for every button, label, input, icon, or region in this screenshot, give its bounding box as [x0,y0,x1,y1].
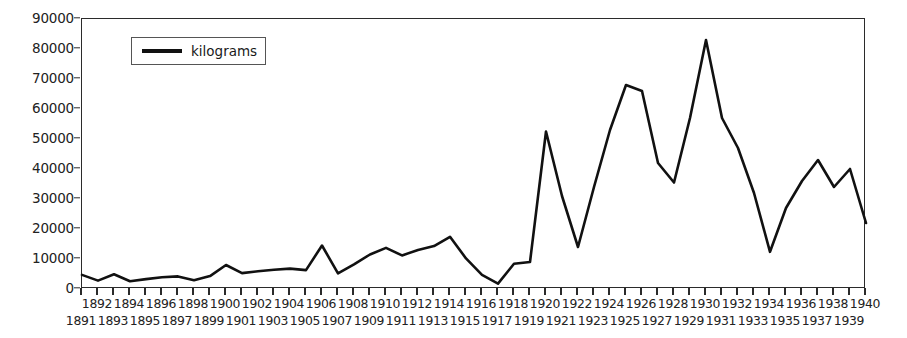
x-tick-mark [752,288,753,295]
x-tick-mark [864,288,865,295]
legend-label-kilograms: kilograms [191,43,257,59]
x-tick-mark [720,288,721,295]
y-tick-mark [74,107,80,108]
x-tick-mark [176,288,177,295]
x-tick-label: 1917 [482,313,512,328]
x-tick-label: 1916 [466,296,496,311]
x-tick-mark [448,288,449,295]
x-tick-label: 1911 [386,313,416,328]
x-tick-mark [208,288,209,295]
x-tick-label: 1909 [354,313,384,328]
y-tick-label: 40000 [32,160,74,176]
x-tick-label: 1891 [66,313,96,328]
x-tick-label: 1897 [162,313,192,328]
y-tick-mark [74,137,80,138]
x-tick-mark [528,288,529,295]
x-tick-label: 1903 [258,313,288,328]
x-tick-label: 1934 [754,296,784,311]
x-tick-mark [160,288,161,295]
y-tick-mark [74,257,80,258]
y-tick-label: 70000 [32,70,74,86]
x-tick-label: 1894 [114,296,144,311]
x-tick-label: 1925 [610,313,640,328]
x-tick-mark [592,288,593,295]
x-tick-mark [784,288,785,295]
y-tick-mark [74,77,80,78]
series-line-kilograms [82,40,866,284]
x-tick-label: 1899 [194,313,224,328]
y-tick-label: 30000 [32,190,74,206]
x-tick-label: 1895 [130,313,160,328]
x-tick-label: 1900 [210,296,240,311]
x-tick-label: 1923 [578,313,608,328]
x-tick-mark [800,288,801,295]
y-tick-label: 80000 [32,40,74,56]
x-tick-label: 1912 [402,296,432,311]
x-tick-mark [672,288,673,295]
x-tick-mark [80,288,81,295]
x-tick-mark [608,288,609,295]
x-tick-mark [384,288,385,295]
x-tick-label: 1940 [850,296,880,311]
x-tick-label: 1920 [530,296,560,311]
x-tick-mark [656,288,657,295]
legend-line-swatch-kilograms [142,49,182,52]
x-tick-mark [336,288,337,295]
x-tick-label: 1915 [450,313,480,328]
y-tick-mark [74,167,80,168]
x-tick-label: 1896 [146,296,176,311]
x-tick-label: 1939 [834,313,864,328]
x-tick-label: 1901 [226,313,256,328]
x-tick-mark [768,288,769,295]
x-tick-mark [640,288,641,295]
y-tick-label: 50000 [32,130,74,146]
y-tick-mark [74,227,80,228]
x-tick-label: 1929 [674,313,704,328]
x-tick-mark [512,288,513,295]
x-tick-mark [128,288,129,295]
x-tick-mark [320,288,321,295]
x-tick-mark [304,288,305,295]
x-tick-mark [112,288,113,295]
y-tick-label: 90000 [32,10,74,26]
x-tick-mark [704,288,705,295]
y-tick-label: 0 [66,280,74,296]
x-tick-mark [624,288,625,295]
x-tick-label: 1921 [546,313,576,328]
x-tick-mark [736,288,737,295]
x-tick-mark [432,288,433,295]
x-tick-mark [560,288,561,295]
x-tick-mark [192,288,193,295]
x-tick-label: 1914 [434,296,464,311]
x-tick-label: 1898 [178,296,208,311]
y-tick-mark [74,287,80,288]
x-tick-mark [496,288,497,295]
y-tick-mark [74,197,80,198]
x-tick-mark [144,288,145,295]
x-tick-mark [480,288,481,295]
chart-legend: kilograms [131,37,266,65]
x-tick-label: 1922 [562,296,592,311]
x-tick-mark [240,288,241,295]
x-tick-label: 1926 [626,296,656,311]
x-tick-mark [288,288,289,295]
x-tick-label: 1910 [370,296,400,311]
y-tick-label: 10000 [32,250,74,266]
x-tick-mark [832,288,833,295]
line-chart: 0100002000030000400005000060000700008000… [0,0,907,338]
x-tick-label: 1904 [274,296,304,311]
y-tick-mark [74,47,80,48]
x-tick-label: 1902 [242,296,272,311]
x-tick-label: 1892 [82,296,112,311]
x-tick-label: 1924 [594,296,624,311]
x-tick-label: 1935 [770,313,800,328]
x-tick-mark [352,288,353,295]
x-tick-label: 1933 [738,313,768,328]
x-tick-label: 1919 [514,313,544,328]
y-axis: 0100002000030000400005000060000700008000… [0,0,74,338]
y-tick-mark [74,17,80,18]
x-tick-label: 1918 [498,296,528,311]
x-tick-label: 1928 [658,296,688,311]
x-tick-label: 1932 [722,296,752,311]
x-tick-mark [96,288,97,295]
